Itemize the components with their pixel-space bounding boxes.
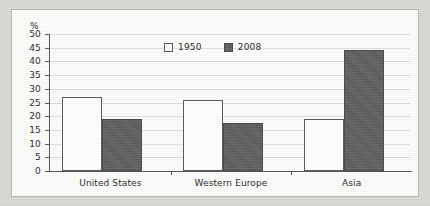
y-axis-tick-label: 30 bbox=[29, 84, 41, 94]
legend-label-1950: 1950 bbox=[178, 42, 202, 52]
y-axis-tick-label: 10 bbox=[29, 139, 41, 149]
bars-layer bbox=[50, 34, 412, 171]
x-axis-separator-tick bbox=[171, 171, 172, 175]
tick-mark bbox=[45, 171, 50, 172]
bar-group bbox=[62, 34, 142, 171]
legend-swatch-1950-icon bbox=[164, 43, 173, 52]
bar-2008-united-states[interactable] bbox=[102, 119, 142, 171]
legend-label-2008: 2008 bbox=[238, 42, 262, 52]
y-axis-tick-label: 15 bbox=[29, 125, 41, 135]
y-axis-tick-label: 45 bbox=[29, 43, 41, 53]
bar-2008-asia[interactable] bbox=[344, 50, 384, 171]
bar-1950-asia[interactable] bbox=[304, 119, 344, 171]
chart-panel: % 50454035302520151050 United StatesWest… bbox=[11, 9, 419, 197]
x-axis-category-label: United States bbox=[50, 178, 171, 188]
legend-item-2008[interactable]: 2008 bbox=[224, 42, 262, 52]
bar-1950-western-europe[interactable] bbox=[183, 100, 223, 171]
y-axis-tick-label: 5 bbox=[35, 152, 41, 162]
bar-group bbox=[183, 34, 263, 171]
x-axis-separator-tick bbox=[291, 171, 292, 175]
plot-area: % 50454035302520151050 United StatesWest… bbox=[12, 10, 418, 196]
bar-1950-united-states[interactable] bbox=[62, 97, 102, 171]
y-axis-tick-label: 0 bbox=[35, 166, 41, 176]
legend-swatch-2008-icon bbox=[224, 43, 233, 52]
y-axis-tick-label: 50 bbox=[29, 29, 41, 39]
chart-legend: 1950 2008 bbox=[164, 42, 261, 52]
chart-screenshot: % 50454035302520151050 United StatesWest… bbox=[0, 0, 430, 206]
y-axis-tick-label: 25 bbox=[29, 98, 41, 108]
x-axis-category-label: Asia bbox=[291, 178, 412, 188]
gridline bbox=[50, 171, 410, 172]
y-axis-tick-label: 20 bbox=[29, 111, 41, 121]
bar-group bbox=[304, 34, 384, 171]
y-axis-tick-label: 40 bbox=[29, 56, 41, 66]
legend-item-1950[interactable]: 1950 bbox=[164, 42, 202, 52]
bar-2008-western-europe[interactable] bbox=[223, 123, 263, 171]
x-axis-category-label: Western Europe bbox=[171, 178, 292, 188]
y-axis-tick-label: 35 bbox=[29, 70, 41, 80]
